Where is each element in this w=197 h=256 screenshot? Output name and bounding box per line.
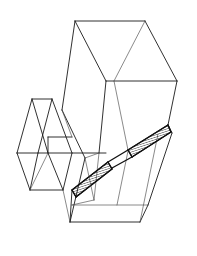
wireframe-line-drawing xyxy=(0,0,197,256)
figure-root xyxy=(0,0,197,256)
